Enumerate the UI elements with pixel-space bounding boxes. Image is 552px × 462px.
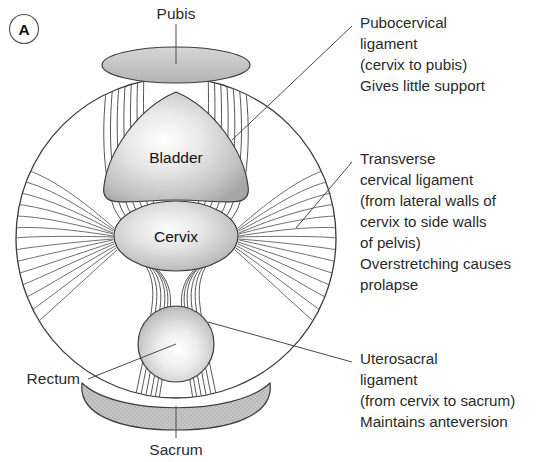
pelvic-ligaments-diagram: A (0, 0, 552, 462)
annotation-line: cervix to side walls (360, 213, 487, 230)
cervix-label: Cervix (154, 228, 198, 245)
annotation-line: Gives little support (360, 77, 486, 94)
annotation-line: (from lateral walls of (360, 192, 497, 209)
annotation-transverse-cervical-ligament: Transverse cervical ligament (from later… (360, 150, 512, 293)
pubis-label: Pubis (157, 5, 196, 22)
annotation-line: of pelvis) (360, 234, 421, 251)
cervix-shape: Cervix (114, 201, 238, 271)
annotation-line: Uterosacral (360, 350, 438, 367)
sacrum-label: Sacrum (149, 441, 202, 458)
annotation-line: (cervix to pubis) (360, 56, 467, 73)
rectum-label: Rectum (27, 370, 80, 387)
panel-label-badge: A (10, 15, 39, 44)
annotation-uterosacral-ligament: Uterosacral ligament (from cervix to sac… (360, 350, 515, 430)
uterosacral-leader-line (208, 322, 352, 362)
annotation-line: Pubocervical (360, 14, 447, 31)
bladder-label: Bladder (149, 149, 202, 166)
transverse-cervical-fibers-right (235, 168, 338, 320)
panel-label-text: A (18, 21, 29, 38)
annotation-line: Transverse (360, 150, 435, 167)
annotation-line: (from cervix to sacrum) (360, 392, 515, 409)
annotation-pubocervical-ligament: Pubocervical ligament (cervix to pubis) … (360, 14, 486, 94)
transverse-cervical-leader-line (296, 162, 352, 228)
figure-canvas: A (0, 0, 552, 462)
pubocervical-leader-line (232, 26, 352, 140)
annotation-line: Maintains anteversion (360, 413, 508, 430)
annotation-line: ligament (360, 35, 418, 52)
annotation-line: cervical ligament (360, 171, 474, 188)
transverse-cervical-fibers-left (14, 168, 117, 320)
bladder-shape: Bladder (104, 92, 249, 202)
annotation-line: ligament (360, 371, 418, 388)
annotation-line: Overstretching causes (360, 255, 512, 272)
annotation-line: prolapse (360, 276, 418, 293)
